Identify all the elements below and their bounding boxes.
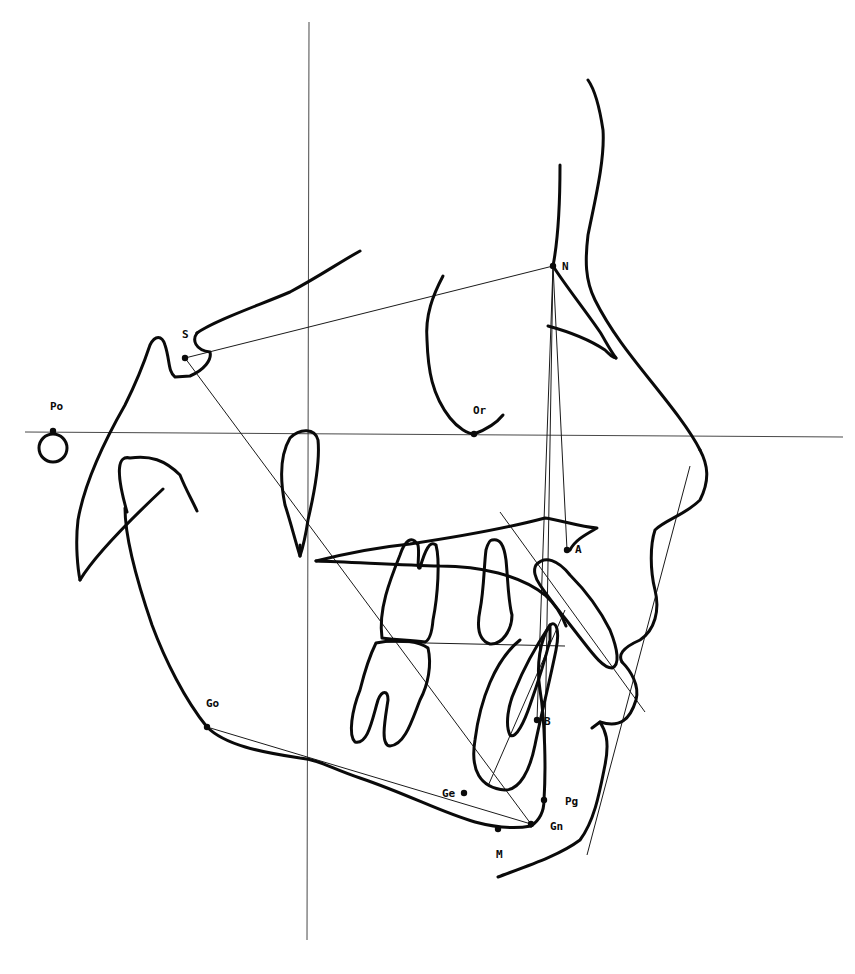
tracing-lower-molar xyxy=(351,641,429,746)
line-upper-incisor-axis xyxy=(500,512,645,712)
landmark-label: Po xyxy=(50,400,64,413)
tracing-orbit xyxy=(427,276,503,434)
landmark-label: A xyxy=(575,543,582,556)
line-go-gn xyxy=(207,727,531,824)
tracing-palatal-upper xyxy=(316,518,597,561)
tracing-ramus-back xyxy=(80,489,163,580)
landmark-m: M xyxy=(495,826,503,861)
line-e-line xyxy=(587,466,690,855)
landmark-label: N xyxy=(562,260,569,273)
landmark-label: Gn xyxy=(550,820,563,833)
landmark-point xyxy=(471,431,477,437)
tracing-ramus-posterior xyxy=(125,508,207,727)
tracing-palatal-lower xyxy=(316,561,566,626)
landmark-label: Go xyxy=(206,697,220,710)
cephalometric-tracing: SNPoOrABGoGnPgMGe xyxy=(0,0,855,974)
frankfort-horizontal-line xyxy=(25,432,843,437)
landmark-pg: Pg xyxy=(541,795,578,808)
tracing-nasal-bone xyxy=(553,165,560,266)
porion-ear-rod-circle xyxy=(39,434,67,462)
tracing-pterygomaxillary xyxy=(282,431,319,556)
landmark-point xyxy=(461,790,467,796)
tracing-condyle xyxy=(119,457,197,512)
landmark-po: Po xyxy=(50,400,64,434)
tracing-premolar xyxy=(479,540,512,644)
landmark-point xyxy=(541,797,547,803)
tracing-nose-profile xyxy=(586,80,700,450)
anatomical-tracings xyxy=(77,80,707,877)
tracing-mandible-lower xyxy=(207,727,531,828)
landmark-ge: Ge xyxy=(442,787,467,800)
landmark-point xyxy=(204,724,210,730)
landmark-label: Ge xyxy=(442,787,456,800)
landmark-point xyxy=(534,717,540,723)
landmark-label: M xyxy=(496,848,503,861)
landmark-point xyxy=(528,821,534,827)
tracing-nasal-bone-lower xyxy=(553,266,616,358)
landmark-label: S xyxy=(182,328,189,341)
landmark-label: Or xyxy=(473,404,487,417)
landmark-label: B xyxy=(544,715,551,728)
landmark-point xyxy=(182,355,188,361)
vertical-reference-line xyxy=(307,22,309,940)
landmark-point xyxy=(550,263,556,269)
tracing-upper-molar xyxy=(381,540,438,642)
landmark-s: S xyxy=(182,328,189,361)
reference-lines xyxy=(25,22,843,940)
landmark-go: Go xyxy=(204,697,220,730)
line-lower-incisor-axis xyxy=(488,610,565,786)
tracing-upper-lip xyxy=(621,450,707,662)
landmark-point xyxy=(495,826,501,832)
landmark-point xyxy=(564,547,570,553)
landmark-point xyxy=(50,428,56,434)
landmark-label: Pg xyxy=(565,795,578,808)
line-n-a xyxy=(553,266,567,550)
landmark-gn: Gn xyxy=(528,820,563,833)
line-s-gn xyxy=(185,358,531,824)
tracing-chin-soft xyxy=(498,722,607,877)
